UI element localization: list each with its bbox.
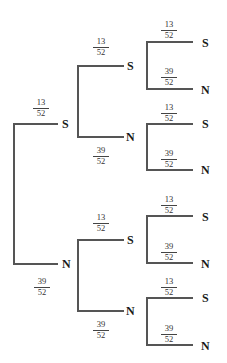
node-NNS: S — [202, 292, 209, 304]
node-SNN: N — [201, 164, 210, 176]
SN-vertical-line — [146, 123, 148, 170]
node-SSS: S — [202, 37, 209, 49]
prob-N: 39 52 — [34, 277, 50, 297]
branch-line-NSN — [146, 262, 193, 264]
NS-vertical-line — [146, 215, 148, 263]
prob-SN: 39 52 — [93, 146, 109, 166]
prob-NNN: 39 52 — [161, 324, 177, 344]
node-NN: N — [126, 305, 135, 317]
NN-vertical-line — [146, 297, 148, 345]
node-NNN: N — [201, 340, 210, 352]
prob-SSN: 39 52 — [161, 67, 177, 87]
root-vertical-line — [13, 123, 15, 264]
node-S: S — [62, 118, 69, 130]
branch-line-SNN — [146, 169, 193, 171]
branch-line-N — [13, 263, 58, 265]
prob-NNS: 13 52 — [161, 277, 177, 297]
node-SNS: S — [202, 118, 209, 130]
branch-line-NNN — [146, 344, 193, 346]
prob-NSN: 39 52 — [161, 242, 177, 262]
prob-NN: 39 52 — [93, 320, 109, 340]
node-NSS: S — [202, 211, 209, 223]
branch-line-SNS — [146, 123, 193, 125]
node-SN: N — [126, 131, 135, 143]
prob-S: 13 52 — [33, 98, 49, 118]
node-NSN: N — [201, 258, 210, 270]
branch-line-NSS — [146, 215, 193, 217]
branch-line-SSS — [146, 41, 193, 43]
prob-NSS: 13 52 — [161, 195, 177, 215]
N-vertical-line — [77, 239, 79, 311]
branch-line-NNS — [146, 297, 193, 299]
node-N: N — [62, 258, 71, 270]
branch-line-NN — [77, 310, 124, 312]
prob-SSS: 13 52 — [161, 20, 177, 40]
node-NS: S — [127, 234, 134, 246]
branch-line-SN — [77, 136, 124, 138]
branch-line-SS — [77, 65, 124, 67]
prob-SS: 13 52 — [93, 37, 109, 57]
prob-SNN: 39 52 — [161, 149, 177, 169]
node-SS: S — [127, 60, 134, 72]
prob-NS: 13 52 — [93, 213, 109, 233]
prob-SNS: 13 52 — [161, 103, 177, 123]
node-SSN: N — [201, 84, 210, 96]
branch-line-NS — [77, 239, 124, 241]
S-vertical-line — [77, 65, 79, 137]
branch-line-SSN — [146, 88, 193, 90]
SS-vertical-line — [146, 41, 148, 89]
branch-line-S — [13, 123, 58, 125]
